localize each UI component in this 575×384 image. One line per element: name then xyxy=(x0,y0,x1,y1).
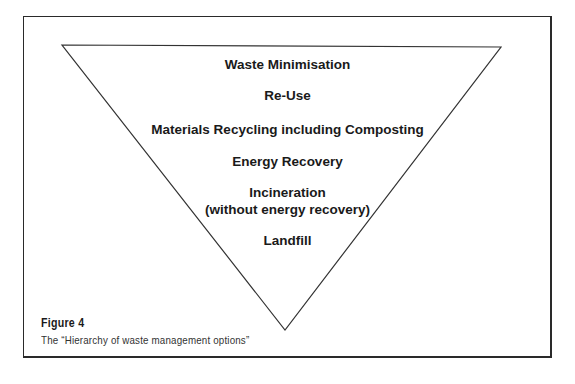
figure-caption: The “Hierarchy of waste management optio… xyxy=(41,334,249,346)
level-waste-minimisation: Waste Minimisation xyxy=(0,56,575,73)
level-landfill: Landfill xyxy=(0,232,575,249)
level-incineration: Incineration xyxy=(0,184,575,201)
level-incineration-sublabel: (without energy recovery) xyxy=(0,201,575,218)
figure-number: Figure 4 xyxy=(41,316,84,330)
level-materials-recycling: Materials Recycling including Composting xyxy=(0,121,575,138)
level-energy-recovery: Energy Recovery xyxy=(0,153,575,170)
level-re-use: Re-Use xyxy=(0,87,575,104)
